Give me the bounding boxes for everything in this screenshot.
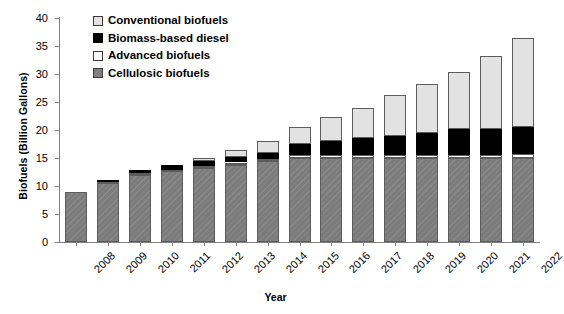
y-tick-label: 25	[8, 97, 48, 108]
y-tick-label: 15	[8, 153, 48, 164]
bar-segment-conv	[512, 38, 534, 127]
legend-item: Biomass-based diesel	[93, 30, 229, 48]
bar-segment-conv	[384, 95, 406, 135]
bar-group	[284, 18, 316, 242]
bar-segment-bio	[193, 161, 215, 167]
x-tick-label: 2013	[252, 250, 277, 275]
bar-segment-bio	[129, 170, 151, 173]
bar-segment-adv	[480, 155, 502, 158]
bar-segment-bio	[512, 127, 534, 154]
stacked-bar	[320, 117, 342, 242]
bar-segment-conv	[257, 141, 279, 153]
stacked-bar	[384, 95, 406, 242]
x-tick-mark	[459, 242, 460, 246]
y-tick-label: 35	[8, 41, 48, 52]
x-tick-mark	[76, 242, 77, 246]
x-tick-label: 2008	[92, 250, 117, 275]
bar-segment-bio	[448, 129, 470, 154]
x-tick-mark	[331, 242, 332, 246]
bar-segment-cell	[225, 165, 247, 242]
x-axis-title: Year	[0, 291, 551, 303]
stacked-bar	[129, 170, 151, 242]
bar-group	[507, 18, 539, 242]
bar-segment-conv	[352, 108, 374, 139]
x-tick-mark	[363, 242, 364, 246]
bar-segment-conv	[289, 127, 311, 144]
bar-segment-cell	[384, 158, 406, 242]
bar-segment-cell	[480, 158, 502, 242]
legend-swatch-adv	[93, 51, 103, 61]
stacked-bar	[225, 150, 247, 242]
legend-item: Conventional biofuels	[93, 12, 229, 30]
stacked-bar	[448, 72, 470, 242]
x-tick-mark	[204, 242, 205, 246]
bar-segment-cell	[512, 158, 534, 242]
bar-group	[379, 18, 411, 242]
bar-segment-cell	[129, 175, 151, 242]
bar-segment-cell	[161, 171, 183, 242]
x-tick-mark	[395, 242, 396, 246]
chart-legend: Conventional biofuelsBiomass-based diese…	[93, 12, 229, 82]
y-tick-mark	[55, 74, 59, 75]
x-tick-label: 2011	[188, 250, 213, 275]
x-tick-mark	[172, 242, 173, 246]
bar-segment-conv	[416, 84, 438, 133]
x-tick-label: 2018	[411, 250, 436, 275]
x-tick-label: 2022	[539, 250, 564, 275]
x-tick-mark	[427, 242, 428, 246]
stacked-bar	[289, 127, 311, 242]
bar-segment-adv	[257, 159, 279, 162]
x-tick-mark	[108, 242, 109, 246]
y-tick-mark	[55, 186, 59, 187]
bar-segment-bio	[352, 138, 374, 155]
x-tick-label: 2014	[284, 250, 309, 275]
legend-item: Advanced biofuels	[93, 47, 229, 65]
y-tick-mark	[55, 158, 59, 159]
bar-segment-adv	[289, 155, 311, 158]
bar-segment-adv	[384, 155, 406, 158]
y-tick-label: 40	[8, 13, 48, 24]
x-tick-label: 2012	[220, 250, 245, 275]
bar-segment-cell	[289, 158, 311, 242]
bar-segment-bio	[384, 136, 406, 156]
legend-label: Advanced biofuels	[108, 50, 210, 62]
bar-segment-adv	[352, 155, 374, 158]
legend-swatch-conv	[93, 16, 103, 26]
bar-segment-adv	[448, 155, 470, 158]
stacked-bar	[512, 38, 534, 242]
stacked-bar	[65, 192, 87, 242]
y-tick-label: 30	[8, 69, 48, 80]
bar-segment-cell	[352, 158, 374, 242]
bar-segment-cell	[193, 168, 215, 242]
bar-segment-cell	[97, 183, 119, 242]
y-tick-mark	[55, 242, 59, 243]
y-tick-label: 0	[8, 237, 48, 248]
bar-segment-adv	[512, 154, 534, 158]
bar-group	[347, 18, 379, 242]
bar-segment-cell	[416, 158, 438, 242]
bar-group	[411, 18, 443, 242]
bar-segment-conv	[320, 117, 342, 142]
bar-segment-bio	[97, 180, 119, 182]
x-tick-label: 2019	[443, 250, 468, 275]
x-tick-label: 2015	[316, 250, 341, 275]
bar-segment-adv	[225, 163, 247, 165]
bar-segment-cell	[320, 158, 342, 242]
bar-segment-conv	[193, 158, 215, 161]
x-tick-label: 2020	[475, 250, 500, 275]
bar-segment-cell	[257, 161, 279, 242]
y-tick-mark	[55, 46, 59, 47]
x-tick-label: 2009	[124, 250, 149, 275]
y-tick-label: 10	[8, 181, 48, 192]
x-tick-label: 2017	[380, 250, 405, 275]
legend-swatch-bio	[93, 33, 103, 43]
y-tick-mark	[55, 214, 59, 215]
bar-segment-adv	[416, 155, 438, 158]
bar-segment-bio	[225, 157, 247, 163]
bar-segment-cell	[65, 192, 87, 242]
x-tick-label: 2021	[507, 250, 532, 275]
y-tick-label: 20	[8, 125, 48, 136]
bar-segment-bio	[416, 133, 438, 155]
x-tick-mark	[236, 242, 237, 246]
